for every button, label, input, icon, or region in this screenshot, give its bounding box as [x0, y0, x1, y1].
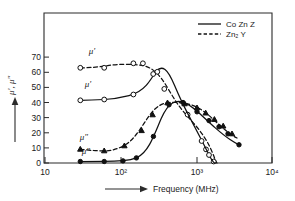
y-axis-ticks	[44, 57, 49, 163]
point-marker	[237, 143, 241, 147]
point-marker	[139, 128, 144, 133]
y-ticklabel-60: 60	[32, 67, 42, 77]
x-ticklabel-10: 10	[40, 167, 50, 177]
x-axis-label: Frequency (MHz)	[153, 184, 219, 194]
y-axis-label: μ', μ"	[6, 76, 16, 96]
point-marker	[155, 69, 160, 74]
legend-label-cozn-z: Co Zn Z	[226, 20, 255, 29]
x-axis-tick-labels: 10 10² 10³ 10⁴	[40, 167, 279, 177]
y-axis-arrowhead	[12, 97, 19, 105]
point-marker	[162, 87, 167, 92]
curve-cozn-z-mu-prime	[80, 68, 215, 163]
point-marker	[131, 61, 136, 66]
point-marker	[102, 97, 107, 102]
x-ticklabel-1000: 10³	[191, 167, 203, 177]
point-marker	[199, 139, 204, 144]
point-marker	[102, 159, 106, 163]
annotation-zn2y-mu-prime: μ'	[88, 46, 97, 56]
x-axis-arrowhead	[140, 186, 148, 192]
point-marker	[167, 103, 171, 107]
point-marker	[217, 125, 221, 129]
point-marker	[195, 110, 199, 114]
y-ticklabel-70: 70	[32, 52, 42, 62]
point-marker	[226, 132, 230, 136]
y-ticklabel-50: 50	[32, 82, 42, 92]
legend-label-zn2y: Zn₂ Y	[226, 30, 247, 39]
point-marker	[134, 156, 138, 160]
annotation-cozn-z-mu-double-prime: μ"	[81, 146, 91, 156]
point-marker	[141, 61, 146, 66]
y-ticklabel-10: 10	[32, 143, 42, 153]
y-ticklabel-20: 20	[32, 128, 42, 138]
point-marker	[131, 92, 136, 97]
point-marker	[207, 118, 211, 122]
x-ticklabel-100: 10²	[115, 167, 127, 177]
point-marker	[78, 159, 82, 163]
y-ticklabel-40: 40	[32, 98, 42, 108]
point-marker	[181, 100, 185, 104]
chart-svg: 0 10 20 30 40 50 60 70 10 10² 10³ 10⁴ μ'…	[0, 0, 295, 201]
point-marker	[78, 98, 83, 103]
point-marker	[102, 148, 107, 153]
annotation-zn2y-mu-double-prime: μ"	[79, 132, 89, 142]
y-axis-title-group: μ', μ"	[6, 76, 18, 142]
point-marker	[150, 112, 155, 117]
point-marker	[151, 134, 155, 138]
point-marker	[212, 117, 217, 122]
annotation-cozn-z-mu-prime: μ'	[84, 79, 93, 89]
y-ticklabel-30: 30	[32, 113, 42, 123]
y-axis-tick-labels: 0 10 20 30 40 50 60 70	[32, 52, 42, 168]
x-ticklabel-10000: 10⁴	[265, 167, 278, 177]
x-axis-title-group: Frequency (MHz)	[105, 184, 219, 194]
point-marker	[78, 65, 83, 70]
point-marker	[207, 153, 212, 158]
series-cozn-z-mu-double-prime	[78, 100, 241, 163]
legend: Co Zn Z Zn₂ Y	[198, 20, 255, 39]
figure-container: 0 10 20 30 40 50 60 70 10 10² 10³ 10⁴ μ'…	[0, 0, 295, 201]
point-marker	[102, 65, 107, 70]
point-marker	[121, 159, 125, 163]
